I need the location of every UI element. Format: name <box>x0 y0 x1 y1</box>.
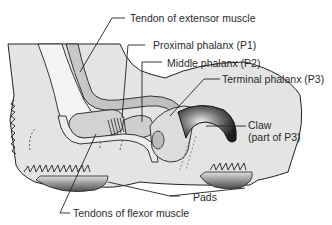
label-claw-note: (part of P3) <box>248 131 301 143</box>
label-pads: Pads <box>193 191 217 203</box>
label-terminal-phalanx: Terminal phalanx (P3) <box>222 73 324 85</box>
label-extensor-tendon: Tendon of extensor muscle <box>130 12 256 24</box>
toe-pad <box>200 172 252 189</box>
label-middle-phalanx: Middle phalanx (P2) <box>167 57 260 69</box>
toe-anatomy-illustration <box>0 0 332 225</box>
digital-pad <box>36 176 108 192</box>
label-proximal-phalanx: Proximal phalanx (P1) <box>153 39 256 51</box>
label-flexor-tendons: Tendons of flexor muscle <box>73 207 189 219</box>
label-claw: Claw <box>248 119 271 131</box>
